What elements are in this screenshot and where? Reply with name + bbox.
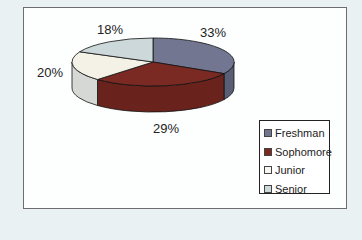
label-freshman: 33% bbox=[200, 26, 226, 39]
legend-item-freshman: Freshman bbox=[264, 124, 329, 143]
legend-label: Senior bbox=[275, 183, 307, 195]
chart-legend: Freshman Sophomore Junior Senior bbox=[259, 120, 330, 194]
label-sophomore: 29% bbox=[153, 122, 179, 135]
legend-item-sophomore: Sophomore bbox=[264, 143, 329, 162]
legend-item-senior: Senior bbox=[264, 180, 329, 199]
label-senior: 18% bbox=[97, 23, 123, 36]
legend-swatch-freshman bbox=[264, 129, 272, 137]
legend-swatch-senior bbox=[264, 185, 272, 193]
legend-label: Junior bbox=[275, 164, 305, 176]
label-junior: 20% bbox=[37, 66, 63, 79]
legend-swatch-junior bbox=[264, 166, 272, 174]
legend-item-junior: Junior bbox=[264, 161, 329, 180]
legend-label: Sophomore bbox=[275, 146, 332, 158]
legend-label: Freshman bbox=[275, 127, 325, 139]
legend-swatch-sophomore bbox=[264, 148, 272, 156]
